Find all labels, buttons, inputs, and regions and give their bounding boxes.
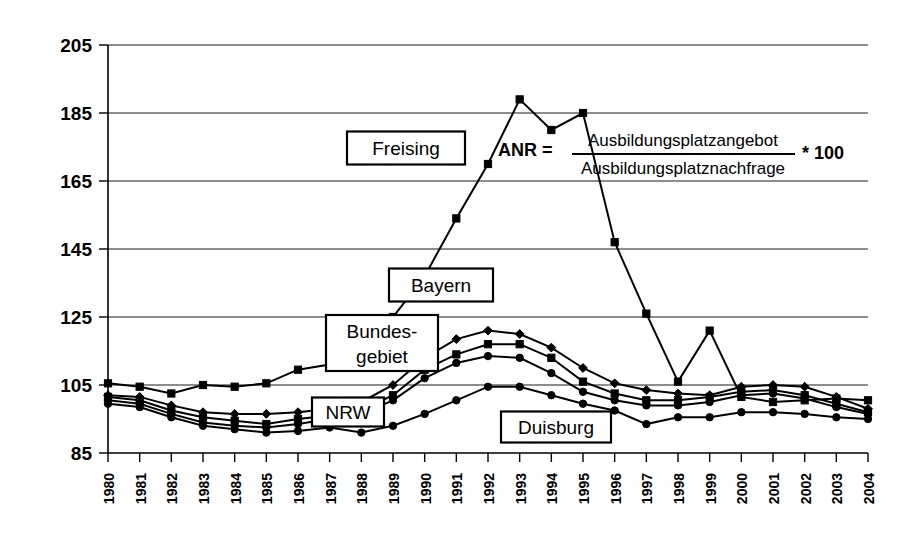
data-point (643, 420, 650, 427)
data-point (864, 415, 871, 422)
x-tick-label-1989: 1989 (386, 473, 402, 504)
callout-bundesgebiet: Bundes-gebiet (326, 315, 438, 371)
data-point (833, 403, 840, 410)
data-point (104, 400, 111, 407)
data-point (516, 383, 523, 390)
data-point (453, 351, 460, 358)
callout-bayern: Bayern (389, 269, 493, 302)
data-point (484, 160, 491, 167)
data-point (643, 402, 650, 409)
data-point (548, 369, 555, 376)
x-tick-label-1988: 1988 (354, 473, 370, 504)
data-point (579, 378, 586, 385)
x-tick-label-2004: 2004 (861, 473, 877, 504)
x-tick-label-1984: 1984 (228, 473, 244, 504)
data-point (706, 327, 713, 334)
data-point (516, 96, 523, 103)
data-point (548, 354, 555, 361)
data-point (769, 409, 776, 416)
data-point (579, 388, 586, 395)
data-point (801, 395, 808, 402)
callout-label-duisburg: Duisburg (518, 417, 594, 438)
data-point (294, 427, 301, 434)
x-tick-label-1998: 1998 (671, 473, 687, 504)
chart-figure: 85105125145165185205 1980198119821983198… (0, 0, 902, 534)
data-point (769, 398, 776, 405)
data-point (738, 409, 745, 416)
data-point (136, 403, 143, 410)
data-point (516, 354, 523, 361)
data-point (801, 410, 808, 417)
x-tick-label-1985: 1985 (259, 473, 275, 504)
data-point (263, 429, 270, 436)
x-tick-label-1982: 1982 (164, 473, 180, 504)
x-tick-label-1983: 1983 (196, 473, 212, 504)
data-point (453, 215, 460, 222)
line-chart-svg: 85105125145165185205 1980198119821983198… (0, 0, 902, 534)
data-point (579, 109, 586, 116)
data-point (548, 126, 555, 133)
formula-lhs-text: ANR = (498, 140, 553, 160)
data-point (611, 390, 618, 397)
callout-nrw: NRW (312, 398, 384, 427)
x-tick-label-1980: 1980 (101, 473, 117, 504)
x-tick-label-1997: 1997 (639, 473, 655, 504)
data-point (674, 378, 681, 385)
x-tick-label-2002: 2002 (798, 473, 814, 504)
formula-denominator-text: Ausbildungsplatznachfrage (581, 159, 785, 178)
data-point (674, 414, 681, 421)
chart-background (0, 0, 902, 534)
x-tick-label-1991: 1991 (449, 473, 465, 504)
y-tick-label-185: 185 (60, 103, 92, 124)
callout-label-bundesgebiet-2: gebiet (356, 346, 408, 367)
data-point (104, 380, 111, 387)
x-tick-label-2001: 2001 (766, 473, 782, 504)
data-point (421, 375, 428, 382)
data-point (579, 400, 586, 407)
data-point (706, 414, 713, 421)
data-point (484, 383, 491, 390)
x-tick-label-1996: 1996 (608, 473, 624, 504)
data-point (453, 359, 460, 366)
data-point (231, 426, 238, 433)
x-tick-label-1981: 1981 (133, 473, 149, 504)
data-point (136, 383, 143, 390)
data-point (358, 429, 365, 436)
y-tick-label-205: 205 (60, 35, 92, 56)
x-tick-label-1987: 1987 (323, 473, 339, 504)
data-point (548, 392, 555, 399)
formula-numerator-text: Ausbildungsplatzangebot (588, 131, 778, 150)
data-point (421, 410, 428, 417)
data-point (864, 397, 871, 404)
data-point (389, 422, 396, 429)
data-point (643, 310, 650, 317)
x-tick-label-1999: 1999 (703, 473, 719, 504)
x-tick-label-2000: 2000 (734, 473, 750, 504)
data-point (199, 381, 206, 388)
data-point (294, 420, 301, 427)
callout-label-nrw: NRW (325, 402, 370, 423)
data-point (199, 422, 206, 429)
data-point (168, 390, 175, 397)
data-point (484, 341, 491, 348)
data-point (484, 352, 491, 359)
data-point (516, 341, 523, 348)
x-tick-label-1992: 1992 (481, 473, 497, 504)
data-point (738, 392, 745, 399)
formula-factor-text: * 100 (802, 143, 844, 163)
y-tick-label-85: 85 (71, 443, 93, 464)
x-tick-label-1993: 1993 (513, 473, 529, 504)
x-tick-label-2003: 2003 (829, 473, 845, 504)
data-point (833, 414, 840, 421)
y-tick-label-125: 125 (60, 307, 92, 328)
callout-label-freising: Freising (372, 138, 440, 159)
data-point (294, 366, 301, 373)
data-point (389, 397, 396, 404)
data-point (263, 380, 270, 387)
x-tick-label-1990: 1990 (418, 473, 434, 504)
y-tick-label-165: 165 (60, 171, 92, 192)
y-tick-label-105: 105 (60, 375, 92, 396)
data-point (769, 390, 776, 397)
callout-label-bundesgebiet-1: Bundes- (347, 321, 418, 342)
data-point (611, 239, 618, 246)
